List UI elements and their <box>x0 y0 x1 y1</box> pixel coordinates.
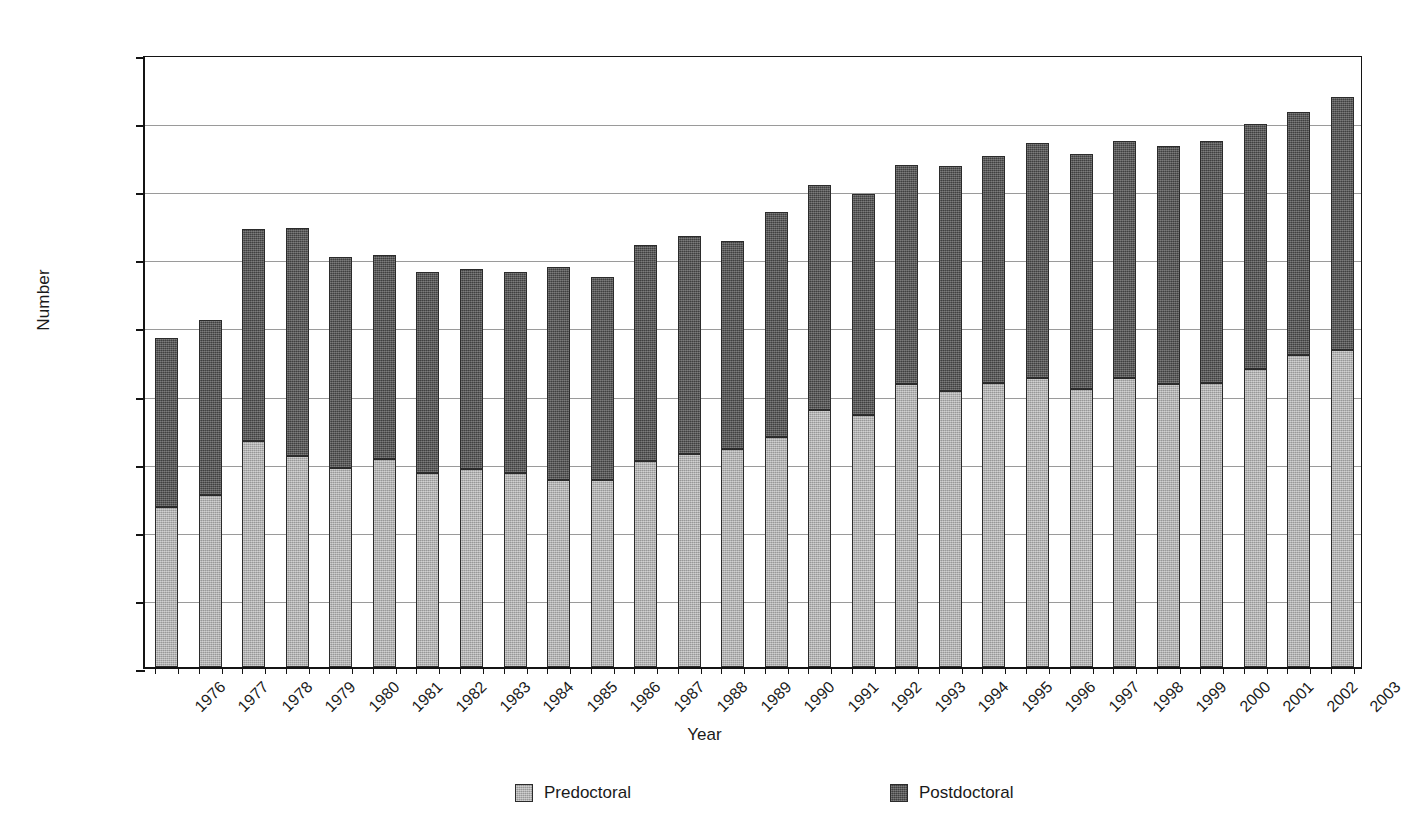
bar-group[interactable] <box>504 54 527 667</box>
bar-segment-predoctoral[interactable] <box>895 384 918 667</box>
bar-segment-predoctoral[interactable] <box>982 383 1005 667</box>
bar-segment-predoctoral[interactable] <box>199 495 222 667</box>
bar-segment-postdoctoral[interactable] <box>982 156 1005 382</box>
x-axis-tick-label: 2003 <box>1367 678 1405 716</box>
bar-group[interactable] <box>286 54 309 667</box>
bar-segment-predoctoral[interactable] <box>591 480 614 667</box>
bar-group[interactable] <box>1287 54 1310 667</box>
bar-segment-predoctoral[interactable] <box>286 456 309 667</box>
bar-segment-predoctoral[interactable] <box>329 468 352 667</box>
bar-group[interactable] <box>1026 54 1049 667</box>
bar-segment-predoctoral[interactable] <box>852 415 875 667</box>
bar-group[interactable] <box>852 54 875 667</box>
bar-segment-predoctoral[interactable] <box>242 441 265 667</box>
bar-segment-postdoctoral[interactable] <box>765 212 788 437</box>
bar-segment-predoctoral[interactable] <box>547 480 570 667</box>
x-axis-tick-mark <box>570 667 571 674</box>
bar-segment-postdoctoral[interactable] <box>591 277 614 480</box>
bar-group[interactable] <box>765 54 788 667</box>
bar-segment-postdoctoral[interactable] <box>460 269 483 470</box>
bar-segment-predoctoral[interactable] <box>765 437 788 667</box>
x-axis-tick-mark <box>808 667 809 674</box>
bar-segment-postdoctoral[interactable] <box>155 338 178 507</box>
legend-entry[interactable]: Postdoctoral <box>890 783 1014 803</box>
bar-segment-predoctoral[interactable] <box>1070 389 1093 667</box>
bar-segment-predoctoral[interactable] <box>504 473 527 667</box>
bar-segment-predoctoral[interactable] <box>1200 383 1223 667</box>
bar-group[interactable] <box>808 54 831 667</box>
bar-group[interactable] <box>721 54 744 667</box>
bar-group[interactable] <box>895 54 918 667</box>
legend-swatch-icon <box>890 784 908 802</box>
x-axis-tick-mark <box>396 667 397 674</box>
x-axis-tick-label: 1995 <box>1018 678 1056 716</box>
bar-segment-postdoctoral[interactable] <box>1026 143 1049 378</box>
bar-segment-postdoctoral[interactable] <box>1200 141 1223 383</box>
x-axis-tick-mark <box>875 667 876 674</box>
bar-segment-postdoctoral[interactable] <box>1113 141 1136 378</box>
bar-segment-predoctoral[interactable] <box>416 473 439 667</box>
bar-segment-predoctoral[interactable] <box>939 391 962 667</box>
bar-segment-postdoctoral[interactable] <box>242 229 265 440</box>
bar-segment-predoctoral[interactable] <box>1331 350 1354 667</box>
bar-segment-predoctoral[interactable] <box>1287 355 1310 667</box>
bar-group[interactable] <box>1070 54 1093 667</box>
bar-group[interactable] <box>1157 54 1180 667</box>
x-axis-tick-mark <box>309 667 310 674</box>
bar-segment-predoctoral[interactable] <box>460 469 483 667</box>
bar-group[interactable] <box>1200 54 1223 667</box>
x-axis-tick-label: 1996 <box>1062 678 1100 716</box>
bar-segment-postdoctoral[interactable] <box>808 185 831 410</box>
bar-segment-postdoctoral[interactable] <box>852 194 875 415</box>
bar-group[interactable] <box>547 54 570 667</box>
bar-group[interactable] <box>1113 54 1136 667</box>
bar-segment-postdoctoral[interactable] <box>678 236 701 454</box>
y-axis-tick-mark <box>136 602 145 604</box>
bar-segment-postdoctoral[interactable] <box>286 228 309 456</box>
bar-segment-predoctoral[interactable] <box>634 461 657 667</box>
bar-segment-postdoctoral[interactable] <box>329 257 352 468</box>
bar-group[interactable] <box>416 54 439 667</box>
bar-segment-postdoctoral[interactable] <box>1287 112 1310 355</box>
x-axis-tick-label: 1991 <box>844 678 882 716</box>
bar-segment-postdoctoral[interactable] <box>199 320 222 495</box>
bar-segment-predoctoral[interactable] <box>155 507 178 667</box>
bar-segment-predoctoral[interactable] <box>373 459 396 667</box>
bar-group[interactable] <box>1331 54 1354 667</box>
bar-group[interactable] <box>1244 54 1267 667</box>
bar-segment-postdoctoral[interactable] <box>939 166 962 391</box>
bar-segment-postdoctoral[interactable] <box>416 272 439 473</box>
bar-segment-postdoctoral[interactable] <box>895 165 918 385</box>
bar-segment-postdoctoral[interactable] <box>721 241 744 449</box>
bar-segment-postdoctoral[interactable] <box>1070 154 1093 389</box>
y-axis-tick-mark <box>136 329 145 331</box>
legend-entry[interactable]: Predoctoral <box>515 783 631 803</box>
bar-segment-postdoctoral[interactable] <box>1244 124 1267 369</box>
bar-group[interactable] <box>242 54 265 667</box>
bar-group[interactable] <box>591 54 614 667</box>
bar-group[interactable] <box>155 54 178 667</box>
bar-segment-predoctoral[interactable] <box>721 449 744 667</box>
bar-group[interactable] <box>329 54 352 667</box>
bar-group[interactable] <box>460 54 483 667</box>
bar-segment-predoctoral[interactable] <box>1157 384 1180 667</box>
bar-segment-postdoctoral[interactable] <box>504 272 527 473</box>
bar-segment-postdoctoral[interactable] <box>1157 146 1180 384</box>
bar-segment-postdoctoral[interactable] <box>634 245 657 461</box>
bar-segment-predoctoral[interactable] <box>1113 378 1136 667</box>
bar-group[interactable] <box>634 54 657 667</box>
bar-group[interactable] <box>199 54 222 667</box>
bar-segment-predoctoral[interactable] <box>1244 369 1267 667</box>
bar-group[interactable] <box>373 54 396 667</box>
bar-group[interactable] <box>982 54 1005 667</box>
bar-group[interactable] <box>939 54 962 667</box>
bar-segment-postdoctoral[interactable] <box>373 255 396 459</box>
bar-segment-postdoctoral[interactable] <box>1331 97 1354 351</box>
x-axis-tick-mark <box>634 667 635 674</box>
bar-segment-postdoctoral[interactable] <box>547 267 570 480</box>
x-axis-tick-mark <box>1005 667 1006 674</box>
bar-group[interactable] <box>678 54 701 667</box>
bar-segment-predoctoral[interactable] <box>1026 378 1049 667</box>
bar-segment-predoctoral[interactable] <box>678 454 701 667</box>
bar-segment-predoctoral[interactable] <box>808 410 831 667</box>
